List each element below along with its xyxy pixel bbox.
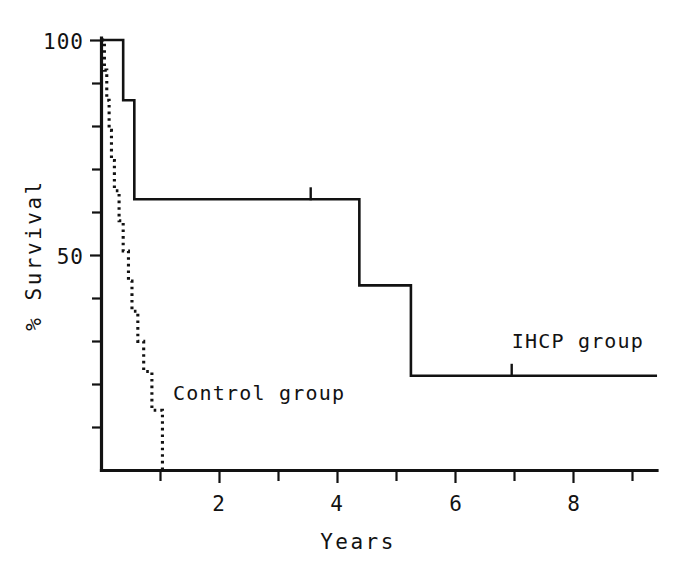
y-tick-label-100: 100 <box>43 30 84 54</box>
survival-chart-figure: 100 50 2 4 6 8 % Survival Years IHCP gro… <box>0 0 687 567</box>
y-axis-title: % Survival <box>22 179 46 330</box>
x-tick-label-6: 6 <box>449 492 463 516</box>
control-group-label: Control group <box>173 381 345 405</box>
chart-svg: 100 50 2 4 6 8 % Survival Years IHCP gro… <box>0 0 687 567</box>
y-tick-label-50: 50 <box>57 245 84 269</box>
chart-axes <box>102 38 658 471</box>
control-group-curve <box>102 40 163 471</box>
x-tick-label-8: 8 <box>567 492 581 516</box>
x-tick-label-2: 2 <box>212 492 226 516</box>
data-series-group <box>102 40 658 471</box>
y-axis-ticks <box>90 41 101 428</box>
ihcp-group-label: IHCP group <box>512 329 644 353</box>
x-axis-title: Years <box>320 530 396 554</box>
ihcp-group-curve <box>102 40 658 376</box>
x-tick-label-4: 4 <box>330 492 344 516</box>
